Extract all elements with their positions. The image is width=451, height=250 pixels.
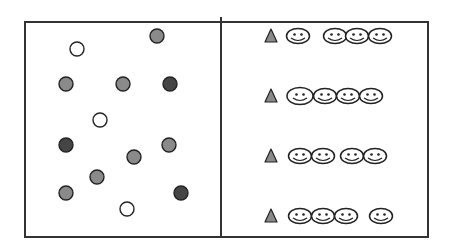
circle-white-icon [120,202,134,216]
circle-grey-icon [162,138,176,152]
triangle-icon [265,89,277,102]
circle-dark-icon [174,186,188,200]
smiley-face-icon [369,29,392,44]
circle-grey-icon [59,186,73,200]
smiley-face-icon [364,149,387,164]
triangle-icon [265,209,277,222]
smiley-face-icon [312,209,335,224]
smiley-face-icon [335,209,358,224]
circle-dark-icon [59,138,73,152]
smiley-face-icon [341,149,364,164]
smiley-face-icon [360,89,383,104]
smiley-face-icon [289,149,312,164]
smiley-face-icon [287,29,310,44]
smiley-face-icon [289,209,312,224]
smiley-face-icon [346,29,369,44]
smiley-face-icon [312,149,335,164]
outer-border [25,22,428,237]
circles-panel [59,29,188,216]
triangle-icon [265,149,277,162]
circle-grey-icon [59,77,73,91]
smiley-face-icon [287,88,313,105]
smiley-face-icon [337,89,360,104]
circle-grey-icon [116,77,130,91]
face-row-3 [265,149,387,164]
circle-dark-icon [163,77,177,91]
circle-white-icon [93,113,107,127]
smiley-face-icon [324,29,347,44]
diagram-canvas [0,0,451,250]
face-row-1 [265,29,392,44]
diagram-svg [0,0,451,250]
smiley-face-icon [370,209,393,224]
circle-grey-icon [150,29,164,43]
face-row-4 [265,209,393,224]
face-row-2 [265,88,383,105]
faces-panel [265,29,393,224]
circle-grey-icon [90,170,104,184]
circle-grey-icon [127,150,141,164]
triangle-icon [265,29,277,42]
frame [25,17,428,237]
smiley-face-icon [314,89,337,104]
circle-white-icon [70,42,84,56]
